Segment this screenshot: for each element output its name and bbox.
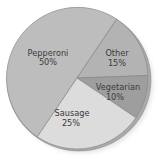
slice-label-pepperoni-pct: 50% bbox=[39, 57, 57, 67]
slice-label-sausage-pct: 25% bbox=[62, 118, 80, 128]
pie-chart: Pepperoni 50% Other 15% Vegetarian 10% S… bbox=[0, 0, 160, 158]
slice-label-sausage-name: Sausage bbox=[55, 108, 90, 118]
slice-label-vegetarian-name: Vegetarian bbox=[96, 82, 140, 92]
slice-label-other-pct: 15% bbox=[108, 58, 126, 68]
slice-label-vegetarian-pct: 10% bbox=[106, 92, 124, 102]
slice-label-other-name: Other bbox=[105, 48, 129, 58]
